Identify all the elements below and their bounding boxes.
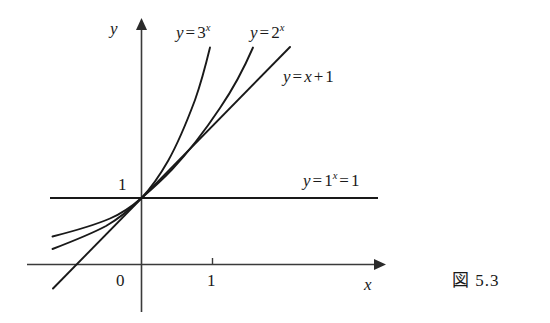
curve-linear-x-plus-1 xyxy=(53,47,290,289)
label-equals: = xyxy=(258,23,272,42)
curve-exp-3 xyxy=(53,48,211,250)
curve-exp-2 xyxy=(53,48,254,237)
label-equals: = xyxy=(291,67,305,86)
x-axis-arrow-icon xyxy=(374,259,386,270)
label-exponent: x xyxy=(280,22,285,33)
figure-caption: 図 5.3 xyxy=(452,266,500,291)
y-axis-arrow-icon xyxy=(136,18,147,30)
x-axis-label: x xyxy=(364,276,372,293)
label-exponent: x xyxy=(206,22,211,33)
origin-label: 0 xyxy=(116,272,125,289)
label-base: 1 xyxy=(324,171,333,190)
label-base: 2 xyxy=(271,23,280,42)
label-equals: = xyxy=(184,23,198,42)
label-lhs: y xyxy=(176,23,184,42)
x-tick-label-1: 1 xyxy=(207,272,216,289)
label-equals-1: = xyxy=(311,171,325,190)
curve-label-constant: y=1x=1 xyxy=(303,172,359,189)
y-axis-label: y xyxy=(110,20,118,37)
curve-label-exp-2: y=2x xyxy=(250,24,284,41)
y-tick-label-1: 1 xyxy=(118,176,127,193)
curve-label-exp-3: y=3x xyxy=(176,24,210,41)
label-lhs: y xyxy=(303,171,311,190)
label-rhs-var: x xyxy=(304,67,312,86)
label-lhs: y xyxy=(283,67,291,86)
label-value: 1 xyxy=(351,171,360,190)
label-equals-2: = xyxy=(337,171,351,190)
figure-5-3: y=3x y=2x y=x+1 y=1x=1 y x 0 1 1 図 5.3 xyxy=(0,0,550,323)
label-lhs: y xyxy=(250,23,258,42)
label-base: 3 xyxy=(197,23,206,42)
curve-label-linear: y=x+1 xyxy=(283,68,334,85)
label-plus: + xyxy=(312,67,326,86)
label-rhs-const: 1 xyxy=(325,67,334,86)
